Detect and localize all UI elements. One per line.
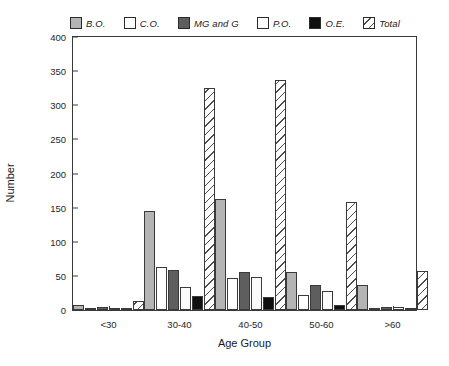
bar-c-o-50-60 [298, 295, 309, 310]
y-tick-label: 150 [50, 202, 73, 213]
y-tick-label: 0 [61, 305, 73, 316]
bar-groups: <3030-4040-5050-60>60 [73, 37, 416, 310]
legend-label-po: P.O. [273, 18, 291, 29]
bar-b-o-50-60 [286, 272, 297, 310]
bar-chart: B.O. C.O. MG and G P.O. O.E. Total Numbe… [0, 0, 449, 366]
bar-o-e-40-50 [263, 297, 274, 310]
chart-legend: B.O. C.O. MG and G P.O. O.E. Total [70, 14, 400, 32]
legend-label-oe: O.E. [325, 18, 344, 29]
bar-b-o-30-40 [144, 211, 155, 310]
legend-entry-po: P.O. [257, 17, 291, 29]
x-tick-label: 40-50 [238, 319, 262, 330]
x-tick-label: 30-40 [167, 319, 191, 330]
x-tick-label: >60 [384, 319, 400, 330]
bar-group-50-60: 50-60 [286, 37, 357, 310]
y-axis-label: Number [4, 163, 16, 202]
legend-swatch-bo [70, 17, 82, 29]
bar-mg-and-g-40-50 [239, 272, 250, 310]
bar-c-o-30-40 [156, 267, 167, 310]
bar-group-30: <30 [73, 37, 144, 310]
bar-b-o-60 [357, 285, 368, 310]
bar-o-e-30 [121, 308, 132, 310]
x-tick-label: <30 [100, 319, 116, 330]
bar-total-30 [133, 301, 144, 310]
x-tick-mark [109, 306, 110, 311]
bar-mg-and-g-50-60 [310, 285, 321, 310]
legend-label-mg-and-g: MG and G [194, 18, 239, 29]
legend-label-co: C.O. [140, 18, 160, 29]
x-axis-label: Age Group [72, 337, 417, 349]
bar-o-e-60 [405, 308, 416, 310]
legend-entry-total: Total [363, 17, 400, 29]
bar-p-o-40-50 [251, 277, 262, 310]
legend-label-total: Total [379, 18, 400, 29]
legend-entry-bo: B.O. [70, 17, 105, 29]
x-tick-mark [322, 306, 323, 311]
legend-entry-oe: O.E. [309, 17, 344, 29]
x-tick-mark [180, 306, 181, 311]
bar-p-o-60 [393, 307, 404, 310]
legend-swatch-mg-and-g [178, 17, 190, 29]
legend-swatch-total [363, 17, 375, 29]
bar-c-o-30 [85, 308, 96, 310]
legend-swatch-oe [309, 17, 321, 29]
bar-b-o-40-50 [215, 199, 226, 310]
plot-area: 050100150200250300350400 <3030-4040-5050… [72, 36, 417, 311]
legend-swatch-co [124, 17, 136, 29]
bar-group-30-40: 30-40 [144, 37, 215, 310]
legend-entry-mg-and-g: MG and G [178, 17, 239, 29]
legend-entry-co: C.O. [124, 17, 160, 29]
bar-mg-and-g-60 [381, 307, 392, 310]
legend-swatch-po [257, 17, 269, 29]
bar-c-o-40-50 [227, 278, 238, 310]
bar-c-o-60 [369, 308, 380, 310]
bar-b-o-30 [73, 305, 84, 310]
bar-o-e-50-60 [334, 305, 345, 310]
bar-mg-and-g-30 [97, 307, 108, 310]
x-tick-label: 50-60 [309, 319, 333, 330]
y-tick-label: 200 [50, 168, 73, 179]
y-tick-label: 300 [50, 100, 73, 111]
bar-total-40-50 [275, 80, 286, 310]
bar-p-o-50-60 [322, 291, 333, 310]
y-tick-label: 350 [50, 66, 73, 77]
bar-group-60: >60 [357, 37, 428, 310]
bar-mg-and-g-30-40 [168, 270, 179, 310]
bar-total-60 [417, 271, 428, 310]
x-tick-mark [393, 306, 394, 311]
bar-o-e-30-40 [192, 296, 203, 310]
bar-group-40-50: 40-50 [215, 37, 286, 310]
bar-total-50-60 [346, 202, 357, 310]
y-tick-label: 250 [50, 134, 73, 145]
y-tick-label: 50 [55, 270, 73, 281]
x-tick-mark [251, 306, 252, 311]
bar-total-30-40 [204, 88, 215, 310]
bar-p-o-30 [109, 308, 120, 310]
y-tick-label: 100 [50, 236, 73, 247]
legend-label-bo: B.O. [86, 18, 105, 29]
y-tick-label: 400 [50, 32, 73, 43]
bar-p-o-30-40 [180, 287, 191, 310]
